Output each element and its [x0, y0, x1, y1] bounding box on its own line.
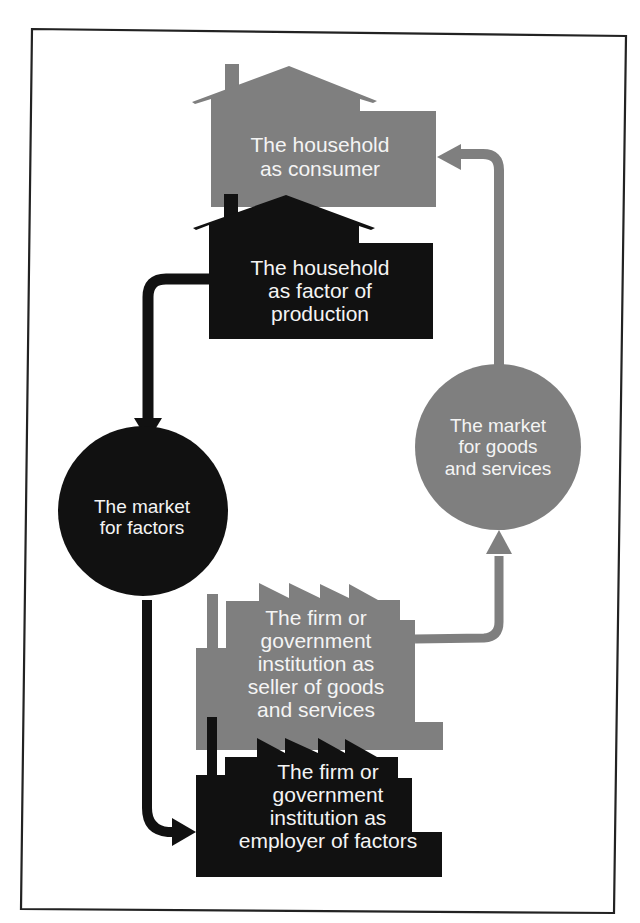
firm-employer-label: The firm or government institution as em… [206, 760, 450, 852]
arrow-goods-to-consumer [455, 154, 499, 368]
circular-flow-diagram: The household as consumer The household … [0, 0, 640, 923]
arrow-factor-to-market [148, 279, 212, 420]
arrow-market-to-employer [147, 600, 180, 832]
arrow-seller-to-goods [415, 556, 499, 639]
firm-seller-label: The firm or government institution as se… [216, 606, 416, 721]
arrowhead-market-to-employer [172, 818, 196, 846]
arrowhead-seller-to-goods [486, 530, 512, 554]
household-factor-label: The household as factor of production [220, 256, 420, 325]
arrowhead-goods-to-consumer [437, 144, 461, 170]
market-factors-label: The market for factors [58, 496, 226, 539]
market-goods-label: The market for goods and services [418, 415, 578, 479]
household-consumer-label: The household as consumer [230, 133, 410, 180]
